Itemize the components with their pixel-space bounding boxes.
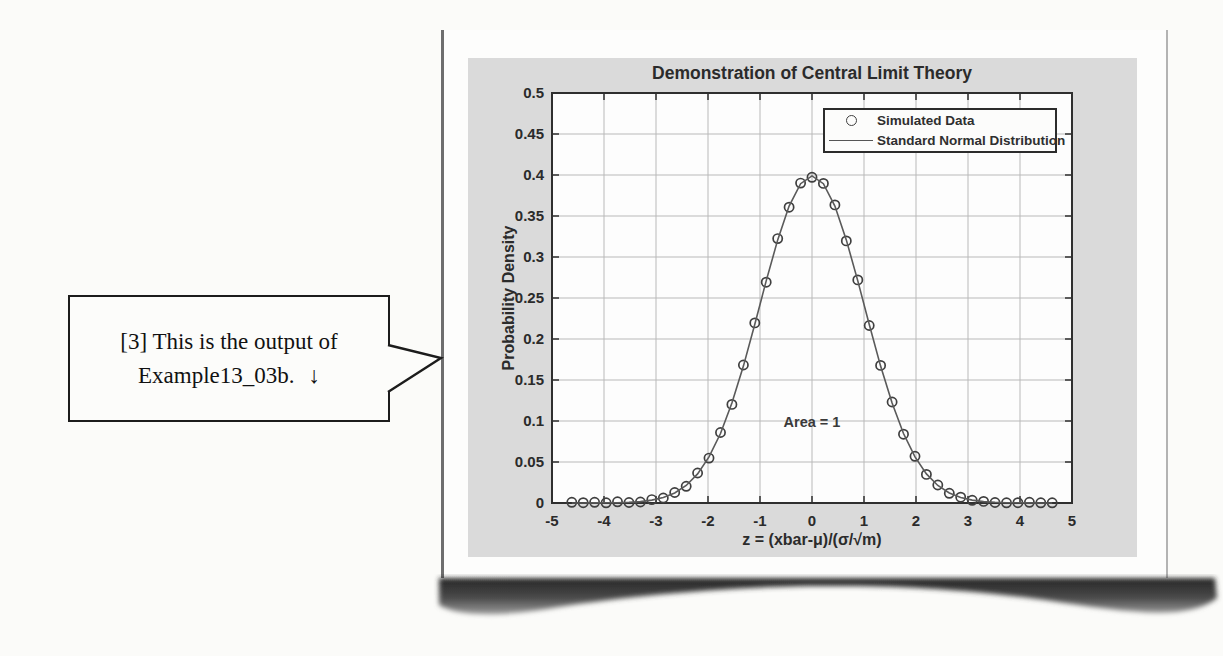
legend-label: Standard Normal Distribution [877, 133, 1065, 148]
legend-item-simulated-data: Simulated Data [825, 112, 1055, 130]
x-tick-label: -3 [649, 512, 662, 529]
x-tick-label: 2 [912, 512, 920, 529]
legend-circle-marker-icon [825, 115, 877, 126]
y-tick-label: 0.05 [515, 453, 544, 470]
x-tick-label: 3 [964, 512, 972, 529]
x-tick-label: 5 [1068, 512, 1076, 529]
y-tick-label: 0 [536, 494, 544, 511]
y-tick-label: 0.3 [523, 248, 544, 265]
legend-label: Simulated Data [877, 113, 975, 128]
x-tick-label: -2 [701, 512, 714, 529]
x-tick-label: 0 [808, 512, 816, 529]
y-tick-label: 0.15 [515, 371, 544, 388]
area-annotation: Area = 1 [784, 414, 841, 430]
x-tick-label: -5 [545, 512, 558, 529]
x-tick-label: 4 [1016, 512, 1025, 529]
y-tick-label: 0.1 [523, 412, 544, 429]
callout-pointer-icon [385, 338, 445, 396]
y-tick-label: 0.5 [523, 84, 544, 101]
callout-line1: [3] This is the output of [120, 325, 337, 359]
x-axis-label: z = (xbar-μ)/(σ/√m) [742, 531, 881, 548]
scanned-page-scene: -5-4-3-2-101234500.050.10.150.20.250.30.… [0, 0, 1223, 656]
x-tick-label: -1 [753, 512, 766, 529]
legend-box: Simulated Data Standard Normal Distribut… [823, 108, 1057, 153]
callout-line2: Example13_03b.↓ [138, 359, 320, 393]
callout-note: [3] This is the output of Example13_03b.… [68, 295, 390, 422]
x-tick-label: 1 [860, 512, 868, 529]
chart-title: Demonstration of Central Limit Theory [652, 63, 972, 83]
y-tick-label: 0.2 [523, 330, 544, 347]
y-tick-label: 0.4 [523, 166, 545, 183]
down-arrow-icon: ↓ [309, 363, 321, 388]
figure-panel: -5-4-3-2-101234500.050.10.150.20.250.30.… [468, 58, 1137, 557]
y-tick-label: 0.35 [515, 207, 544, 224]
legend-item-standard-normal: Standard Normal Distribution [825, 132, 1055, 150]
y-tick-label: 0.25 [515, 289, 544, 306]
x-tick-label: -4 [597, 512, 611, 529]
y-axis-label: Probability Density [500, 225, 517, 370]
shadow-shape [439, 578, 1217, 614]
y-tick-label: 0.45 [515, 125, 544, 142]
page-bottom-shadow [425, 574, 1223, 652]
legend-line-marker-icon [825, 140, 877, 141]
